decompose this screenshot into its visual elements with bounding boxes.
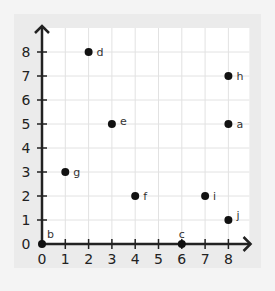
x-tick-label: 6 bbox=[177, 251, 186, 267]
point-label-j: j bbox=[235, 209, 239, 222]
plot-area bbox=[42, 28, 249, 244]
x-tick-label: 2 bbox=[84, 251, 93, 267]
x-tick-label: 3 bbox=[107, 251, 116, 267]
data-point-b bbox=[38, 240, 46, 248]
point-label-b: b bbox=[47, 228, 54, 241]
x-tick-label: 1 bbox=[61, 251, 70, 267]
scatter-plot: 012345678012345678abcdefghij bbox=[0, 0, 275, 291]
point-label-i: i bbox=[213, 190, 216, 203]
point-label-a: a bbox=[236, 118, 243, 131]
data-point-i bbox=[201, 192, 209, 200]
y-tick-label: 6 bbox=[22, 92, 31, 108]
data-point-j bbox=[224, 216, 232, 224]
data-point-c bbox=[178, 240, 186, 248]
point-label-h: h bbox=[236, 70, 243, 83]
data-point-a bbox=[224, 120, 232, 128]
data-point-h bbox=[224, 72, 232, 80]
data-point-f bbox=[131, 192, 139, 200]
y-tick-label: 2 bbox=[22, 188, 31, 204]
y-tick-label: 3 bbox=[22, 164, 31, 180]
y-tick-label: 0 bbox=[22, 236, 31, 252]
x-tick-label: 8 bbox=[224, 251, 233, 267]
data-point-e bbox=[108, 120, 116, 128]
point-label-d: d bbox=[97, 46, 104, 59]
y-tick-label: 5 bbox=[22, 116, 31, 132]
point-label-e: e bbox=[120, 115, 127, 128]
point-label-g: g bbox=[73, 166, 80, 179]
y-tick-label: 1 bbox=[22, 212, 31, 228]
data-point-d bbox=[85, 48, 93, 56]
x-tick-label: 7 bbox=[201, 251, 210, 267]
x-tick-label: 0 bbox=[38, 251, 47, 267]
x-tick-label: 5 bbox=[154, 251, 163, 267]
y-tick-label: 8 bbox=[22, 44, 31, 60]
point-label-c: c bbox=[179, 228, 185, 241]
y-tick-label: 4 bbox=[22, 140, 31, 156]
x-tick-label: 4 bbox=[131, 251, 140, 267]
y-tick-label: 7 bbox=[22, 68, 31, 84]
data-point-g bbox=[61, 168, 69, 176]
